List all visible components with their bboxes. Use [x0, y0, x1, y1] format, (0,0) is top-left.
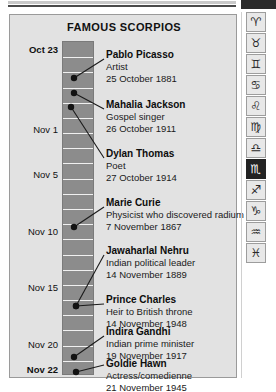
virgo-icon[interactable]: ♍ [246, 117, 266, 137]
person-name: Marie Curie [106, 197, 244, 209]
ladder-rung [63, 361, 93, 362]
zodiac-sign-rail[interactable]: ♈♉♊♋♌♍♎♏♐♑♒♓ [246, 12, 268, 264]
sagittarius-icon[interactable]: ♐ [246, 180, 266, 200]
aries-icon[interactable]: ♈ [246, 12, 266, 32]
person-role: Indian prime minister [106, 338, 244, 350]
ladder-rung [63, 194, 93, 195]
ladder-rung [63, 346, 93, 347]
person-entry: Goldie HawnActress/comedienne21 November… [106, 358, 244, 392]
ladder-rung [63, 118, 93, 119]
person-name: Mahalia Jackson [106, 99, 244, 111]
person-birth-date: 21 November 1945 [106, 382, 244, 392]
libra-icon[interactable]: ♎ [246, 138, 266, 158]
ladder-rung [63, 103, 93, 104]
person-name: Goldie Hawn [106, 358, 244, 370]
date-tick-label: Nov 15 [10, 283, 58, 293]
ladder-rung [63, 57, 93, 58]
ladder-rung [63, 209, 93, 210]
ladder-rung [63, 330, 93, 331]
page-title: FAMOUS SCORPIOS [10, 21, 238, 33]
aquarius-icon[interactable]: ♒ [246, 222, 266, 242]
person-name: Dylan Thomas [106, 148, 244, 160]
ladder-rung [63, 148, 93, 149]
rail-divider [241, 12, 242, 378]
person-role: Physicist who discovered radium [106, 209, 244, 221]
ladder-rung [63, 315, 93, 316]
ladder-rung [63, 72, 93, 73]
date-tick-label: Nov 1 [10, 125, 58, 135]
person-entry: Indira GandhiIndian prime minister19 Nov… [106, 326, 244, 362]
ladder-rung [63, 239, 93, 240]
person-name: Indira Gandhi [106, 326, 244, 338]
date-tick-label: Nov 5 [10, 170, 58, 180]
top-color-swatch [241, 0, 276, 9]
person-birth-date: 14 November 1889 [106, 269, 244, 281]
ladder-rung [63, 224, 93, 225]
date-tick-label: Oct 23 [10, 45, 58, 55]
cancer-icon[interactable]: ♋ [246, 75, 266, 95]
capricorn-icon[interactable]: ♑ [246, 201, 266, 221]
person-entry: Marie CuriePhysicist who discovered radi… [106, 197, 244, 233]
person-name: Pablo Picasso [106, 49, 244, 61]
ladder-rung [63, 270, 93, 271]
top-rule-dark [8, 5, 236, 7]
ladder-rung [63, 179, 93, 180]
person-birth-date: 7 November 1867 [106, 221, 244, 233]
ladder-rung [63, 163, 93, 164]
pisces-icon[interactable]: ♓ [246, 243, 266, 263]
famous-scorpios-panel: FAMOUS SCORPIOS Oct 23Nov 1Nov 5Nov 10No… [9, 14, 237, 378]
ladder-rung [63, 133, 93, 134]
leo-icon[interactable]: ♌ [246, 96, 266, 116]
date-tick-label: Nov 22 [10, 365, 58, 375]
person-birth-date: 25 October 1881 [106, 73, 244, 85]
scorpio-icon[interactable]: ♏ [246, 159, 266, 179]
person-birth-date: 27 October 1914 [106, 172, 244, 184]
person-entry: Mahalia JacksonGospel singer26 October 1… [106, 99, 244, 135]
person-entry: Jawaharlal NehruIndian political leader1… [106, 245, 244, 281]
ladder-rung [63, 88, 93, 89]
person-role: Gospel singer [106, 111, 244, 123]
gemini-icon[interactable]: ♊ [246, 54, 266, 74]
top-rule-light [8, 1, 236, 4]
date-ladder-bar [62, 41, 94, 375]
date-tick-label: Nov 20 [10, 340, 58, 350]
person-role: Artist [106, 61, 244, 73]
person-name: Jawaharlal Nehru [106, 245, 244, 257]
ladder-rung [63, 300, 93, 301]
person-role: Actress/comedienne [106, 370, 244, 382]
date-tick-label: Nov 10 [10, 227, 58, 237]
person-name: Prince Charles [106, 294, 244, 306]
person-role: Poet [106, 160, 244, 172]
person-role: Indian political leader [106, 257, 244, 269]
person-entry: Dylan ThomasPoet27 October 1914 [106, 148, 244, 184]
person-role: Heir to British throne [106, 306, 244, 318]
taurus-icon[interactable]: ♉ [246, 33, 266, 53]
ladder-rung [63, 255, 93, 256]
person-entry: Prince CharlesHeir to British throne14 N… [106, 294, 244, 330]
person-entry: Pablo PicassoArtist25 October 1881 [106, 49, 244, 85]
ladder-rung [63, 285, 93, 286]
person-birth-date: 26 October 1911 [106, 123, 244, 135]
